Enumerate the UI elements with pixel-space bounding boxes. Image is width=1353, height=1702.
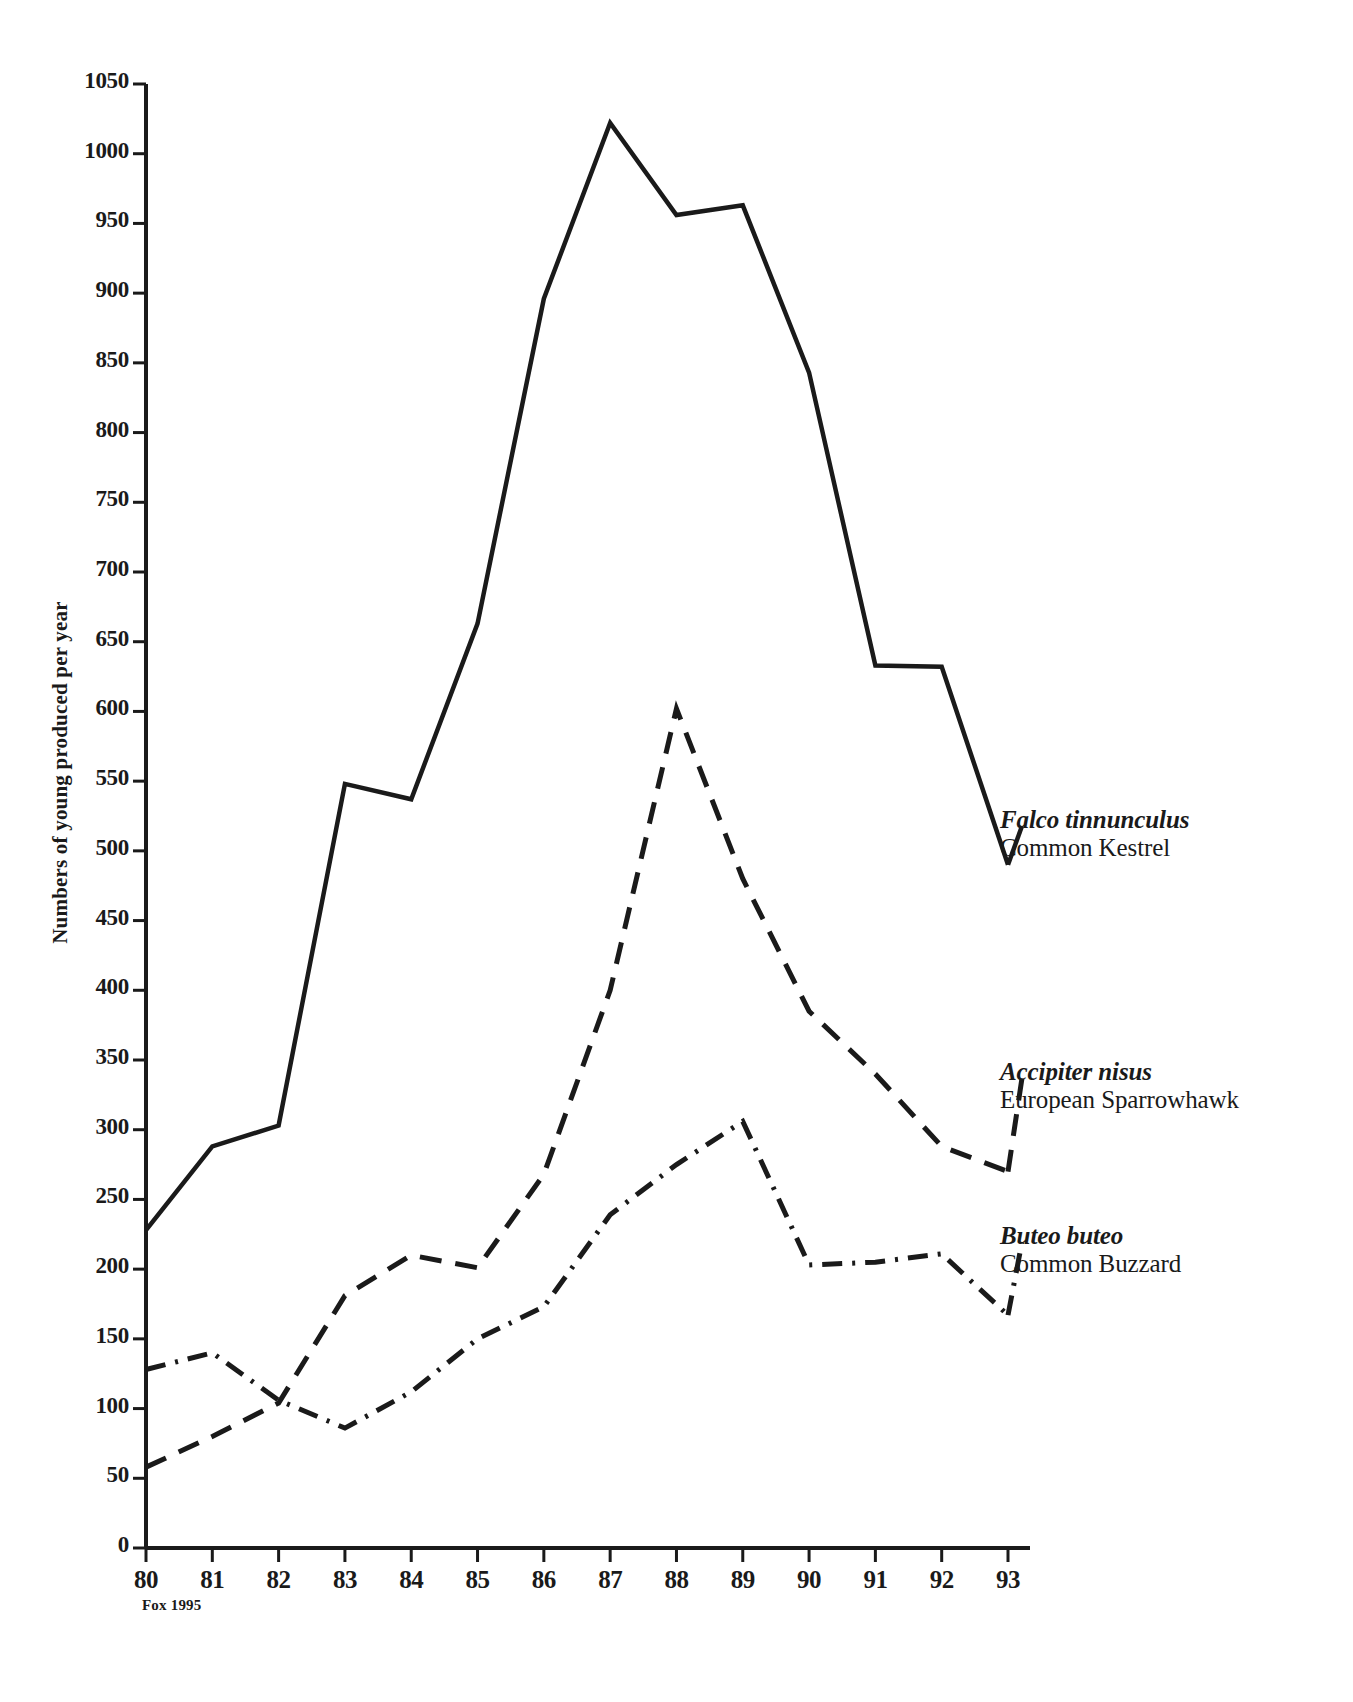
legend-item-falco-tinnunculus: Falco tinnunculus Common Kestrel (1000, 806, 1189, 862)
legend-common-name: European Sparrowhawk (1000, 1086, 1239, 1114)
x-tick-label: 88 (646, 1566, 706, 1594)
y-tick-label: 1000 (29, 138, 129, 164)
y-tick-label: 350 (29, 1044, 129, 1070)
x-tick-label: 92 (912, 1566, 972, 1594)
series-line-accipiter-nisus (146, 709, 1008, 1467)
x-tick-label: 93 (978, 1566, 1038, 1594)
x-tick-label: 81 (182, 1566, 242, 1594)
y-tick-label: 250 (29, 1183, 129, 1209)
x-tick-label: 82 (249, 1566, 309, 1594)
y-tick-label: 450 (29, 905, 129, 931)
axes-group (133, 84, 1030, 1562)
legend-scientific-name: Buteo buteo (1000, 1222, 1181, 1250)
legend-scientific-name: Falco tinnunculus (1000, 806, 1189, 834)
y-tick-label: 800 (29, 417, 129, 443)
legend-scientific-name: Accipiter nisus (1000, 1058, 1239, 1086)
series-line-buteo-buteo (146, 1121, 1008, 1428)
x-tick-label: 87 (580, 1566, 640, 1594)
y-tick-label: 500 (29, 835, 129, 861)
x-tick-marks (146, 1548, 1008, 1562)
x-tick-label: 86 (514, 1566, 574, 1594)
x-tick-label: 91 (845, 1566, 905, 1594)
y-tick-label: 600 (29, 695, 129, 721)
legend-item-buteo-buteo: Buteo buteo Common Buzzard (1000, 1222, 1181, 1278)
y-tick-label: 550 (29, 765, 129, 791)
y-tick-label: 700 (29, 556, 129, 582)
data-series-group (146, 123, 1008, 1467)
legend-item-accipiter-nisus: Accipiter nisus European Sparrowhawk (1000, 1058, 1239, 1114)
series-line-falco-tinnunculus (146, 123, 1008, 1230)
y-tick-label: 0 (29, 1532, 129, 1558)
y-tick-label: 150 (29, 1323, 129, 1349)
x-tick-label: 84 (381, 1566, 441, 1594)
y-tick-label: 200 (29, 1253, 129, 1279)
legend-common-name: Common Buzzard (1000, 1250, 1181, 1278)
y-tick-label: 900 (29, 277, 129, 303)
figure-root: Numbers of young produced per year 05010… (0, 0, 1353, 1702)
y-tick-label: 1050 (29, 68, 129, 94)
legend-common-name: Common Kestrel (1000, 834, 1189, 862)
source-note: Fox 1995 (142, 1597, 202, 1614)
y-tick-label: 400 (29, 974, 129, 1000)
x-tick-label: 85 (448, 1566, 508, 1594)
x-tick-label: 80 (116, 1566, 176, 1594)
x-tick-label: 83 (315, 1566, 375, 1594)
y-tick-label: 850 (29, 347, 129, 373)
y-tick-label: 100 (29, 1393, 129, 1419)
y-tick-label: 950 (29, 207, 129, 233)
y-tick-label: 300 (29, 1114, 129, 1140)
x-tick-label: 89 (713, 1566, 773, 1594)
y-tick-label: 650 (29, 626, 129, 652)
y-tick-label: 50 (29, 1462, 129, 1488)
y-tick-label: 750 (29, 486, 129, 512)
x-tick-label: 90 (779, 1566, 839, 1594)
